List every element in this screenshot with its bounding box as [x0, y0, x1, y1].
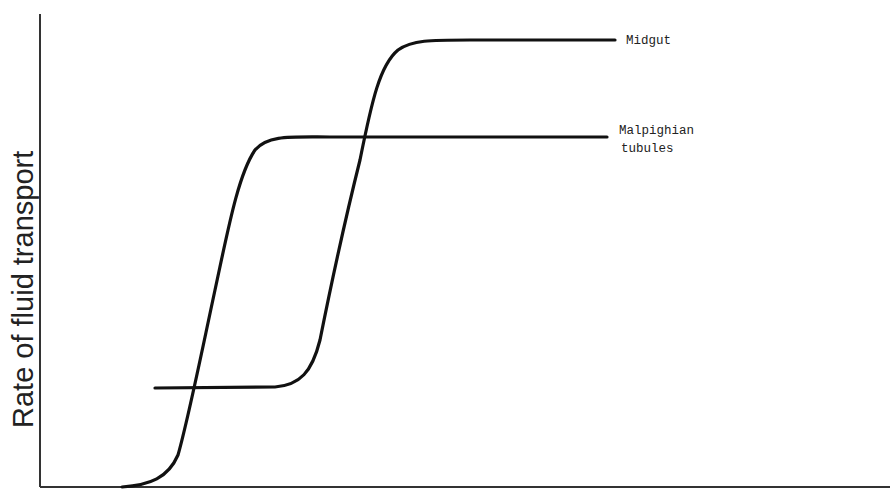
malpighian-label-line2: tubules — [621, 142, 674, 156]
chart: Rate of fluid transport Midgut Malpighia… — [0, 0, 894, 504]
y-axis-label: Rate of fluid transport — [7, 151, 39, 428]
series-midgut — [155, 40, 615, 388]
series-malpighian-tubules — [122, 137, 607, 487]
midgut-label: Midgut — [626, 34, 671, 48]
malpighian-label-line1: Malpighian — [619, 124, 694, 138]
